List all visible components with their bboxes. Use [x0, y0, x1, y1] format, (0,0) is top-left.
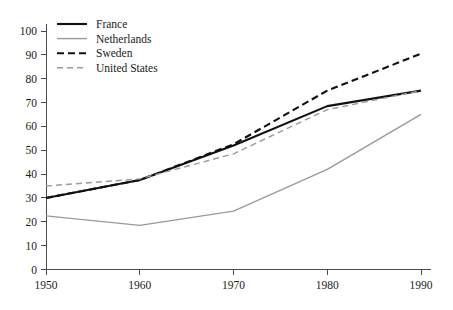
- y-tick-label: 100: [20, 25, 38, 37]
- y-tick-label: 50: [26, 144, 38, 156]
- x-tick-label: 1950: [35, 279, 58, 291]
- chart-legend: FranceNetherlandsSwedenUnited States: [57, 18, 158, 74]
- y-tick-label: 60: [26, 120, 38, 132]
- series-lines: [46, 54, 421, 226]
- series-line-netherlands: [46, 114, 421, 225]
- y-tick-label: 30: [26, 192, 38, 204]
- line-chart: 0102030405060708090100 19501960197019801…: [0, 0, 453, 310]
- y-tick-label: 10: [26, 240, 38, 252]
- x-tick-label: 1990: [410, 279, 433, 291]
- x-tick-label: 1980: [316, 279, 339, 291]
- y-axis: 0102030405060708090100: [20, 24, 46, 276]
- y-tick-label: 70: [26, 97, 38, 109]
- legend-label-united-states: United States: [96, 62, 158, 74]
- y-tick-label: 80: [26, 73, 38, 85]
- y-tick-label: 90: [26, 49, 38, 61]
- series-line-sweden: [46, 54, 421, 198]
- y-tick-label: 20: [26, 216, 38, 228]
- legend-label-netherlands: Netherlands: [96, 33, 152, 45]
- x-tick-label: 1970: [222, 279, 245, 291]
- x-tick-label: 1960: [128, 279, 151, 291]
- x-axis: 19501960197019801990: [35, 270, 433, 291]
- series-line-united-states: [46, 91, 421, 186]
- legend-label-sweden: Sweden: [96, 47, 133, 59]
- y-tick-label: 40: [26, 168, 38, 180]
- series-line-france: [46, 91, 421, 198]
- y-tick-label: 0: [31, 264, 37, 276]
- chart-canvas: 0102030405060708090100 19501960197019801…: [0, 0, 453, 310]
- legend-label-france: France: [96, 18, 127, 30]
